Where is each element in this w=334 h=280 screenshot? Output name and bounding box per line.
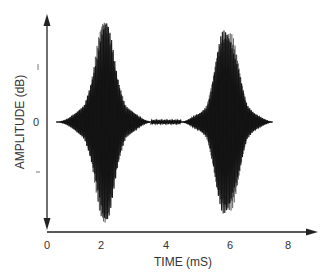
connecting-trace [151,120,182,123]
x-tick-label-4: 4 [163,240,169,251]
y-axis-down-arrow-icon [44,218,51,230]
x-tick-label-6: 6 [227,240,233,251]
y-axis-up-arrow-icon [44,14,51,26]
x-tick-label-2: 2 [98,240,104,251]
x-axis [47,229,318,236]
waveform-chart [0,0,334,280]
x-axis-label: TIME (mS) [154,256,212,268]
x-tick-label-0: 0 [44,240,50,251]
x-tick-label-8: 8 [285,240,291,251]
x-axis-right-arrow-icon [306,229,318,236]
waveform-series [56,23,273,223]
y-tick-label-zero: 0 [33,117,39,128]
y-axis-label: AMPLITUDE (dB) [14,75,26,170]
